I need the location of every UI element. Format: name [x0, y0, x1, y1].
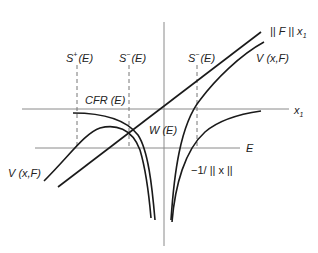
v-left-label: V (x,F): [8, 167, 41, 179]
v-right-curve: [171, 42, 264, 220]
v-left-curve: [44, 127, 151, 218]
cfr-label: CFR (E): [85, 94, 126, 106]
x1-axis-label: x1: [293, 104, 304, 118]
e-axis-label: E: [246, 142, 254, 154]
s-minus-left-label: S−(E): [119, 51, 146, 64]
norm-f-label: || F || x1: [270, 25, 307, 39]
energy-diagram: S+(E) S−(E) S−(E) CFR (E) W (E) || F || …: [0, 0, 318, 253]
inv-norm-label: −1/ || x ||: [191, 164, 233, 176]
w-label: W (E): [149, 124, 177, 136]
s-plus-label: S+(E): [66, 51, 93, 64]
s-minus-right-label: S−(E): [188, 51, 215, 64]
v-right-label: V (x,F): [256, 52, 289, 64]
